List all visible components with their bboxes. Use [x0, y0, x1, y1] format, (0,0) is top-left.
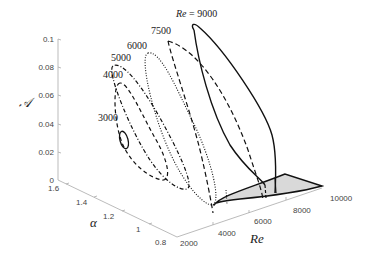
y-tick-labels: 1.6 1.4 1.2 1 0.8	[48, 184, 167, 247]
x-tick-labels: 2000 4000 6000 8000 10000	[180, 194, 353, 248]
label-re-9000: Re = 9000	[175, 8, 217, 19]
y-axis-label: α	[90, 215, 98, 230]
x-axis-label: Re	[249, 231, 264, 246]
z-tick-labels: 0.1 0.08 0.06 0.04 0.02 0	[38, 35, 54, 185]
axes	[58, 39, 322, 237]
x-tick: 10000	[330, 194, 353, 203]
z-axis-label: 𝒜	[19, 95, 35, 110]
z-tick: 0.08	[38, 63, 54, 72]
y-tick: 1.4	[76, 198, 88, 207]
label-re-4000: 4000	[103, 69, 123, 80]
z-tick: 0.02	[38, 148, 54, 157]
y-axis-line	[58, 180, 177, 237]
label-re-5000: 5000	[111, 52, 131, 63]
z-tick: 0.04	[38, 120, 54, 129]
x-tick: 8000	[293, 206, 311, 215]
z-tick: 0.1	[43, 35, 55, 44]
label-re-6000: 6000	[127, 40, 147, 51]
curve-re-9000	[192, 24, 275, 193]
x-tick: 2000	[180, 239, 198, 248]
chart-3d: 0.1 0.08 0.06 0.04 0.02 0 𝒜 1.6 1.4 1.2 …	[0, 0, 368, 261]
x-tick: 4000	[218, 229, 236, 238]
y-tick: 1	[136, 225, 141, 234]
y-tick: 0.8	[155, 238, 167, 247]
label-re-7500: 7500	[151, 25, 171, 36]
base-region	[214, 174, 322, 205]
label-re-3000: 3000	[98, 112, 118, 123]
z-tick: 0.06	[38, 91, 54, 100]
x-tick: 6000	[254, 217, 272, 226]
curve-re-6000	[145, 53, 216, 205]
y-tick: 1.2	[103, 212, 115, 221]
curve-re-5000	[112, 65, 189, 189]
y-tick: 1.6	[48, 184, 60, 193]
